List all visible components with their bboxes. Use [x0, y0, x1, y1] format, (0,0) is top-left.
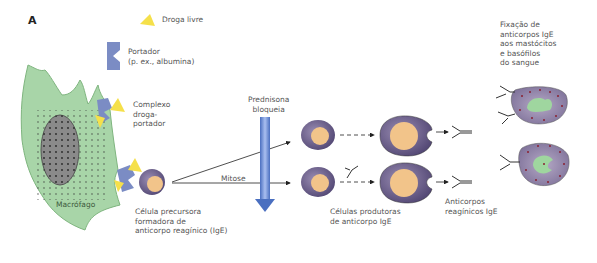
- free-drug-icon: [140, 14, 155, 26]
- producing-cells-label: Células produtoras de anticorpo IgE: [330, 207, 401, 226]
- prednisone-label: Prednisona bloqueia: [248, 95, 289, 114]
- antibody-icon: [345, 166, 358, 178]
- prednisone-block-arrow: [255, 117, 275, 212]
- free-drug-label: Droga livre: [162, 15, 203, 25]
- mitosis-label: Mitose: [221, 174, 246, 184]
- precursor-complex-icon: [114, 158, 142, 192]
- fixation-label: Fixação de anticorpos IgE aos mastócitos…: [500, 20, 556, 68]
- carrier-label: Portador (p. ex., albumina): [128, 47, 194, 66]
- producing-cell-bottom: [301, 167, 335, 197]
- ige-antibody-icon: [452, 126, 472, 188]
- mast-cell-top: [511, 87, 567, 124]
- complex-label: Complexo droga- portador: [133, 100, 170, 129]
- panel-label: A: [28, 14, 37, 27]
- mast-cell-bottom: [519, 143, 569, 185]
- macrophage-label: Macrófago: [56, 200, 95, 210]
- producing-cell-top: [301, 120, 335, 150]
- plasma-cell-bottom: [380, 163, 432, 203]
- plasma-cell-top: [380, 116, 432, 156]
- carrier-icon: [107, 42, 120, 70]
- antibodies-label: Anticorpos reagínicos IgE: [445, 197, 498, 216]
- precursor-label: Célula precursora formadora de anticorpo…: [135, 207, 227, 236]
